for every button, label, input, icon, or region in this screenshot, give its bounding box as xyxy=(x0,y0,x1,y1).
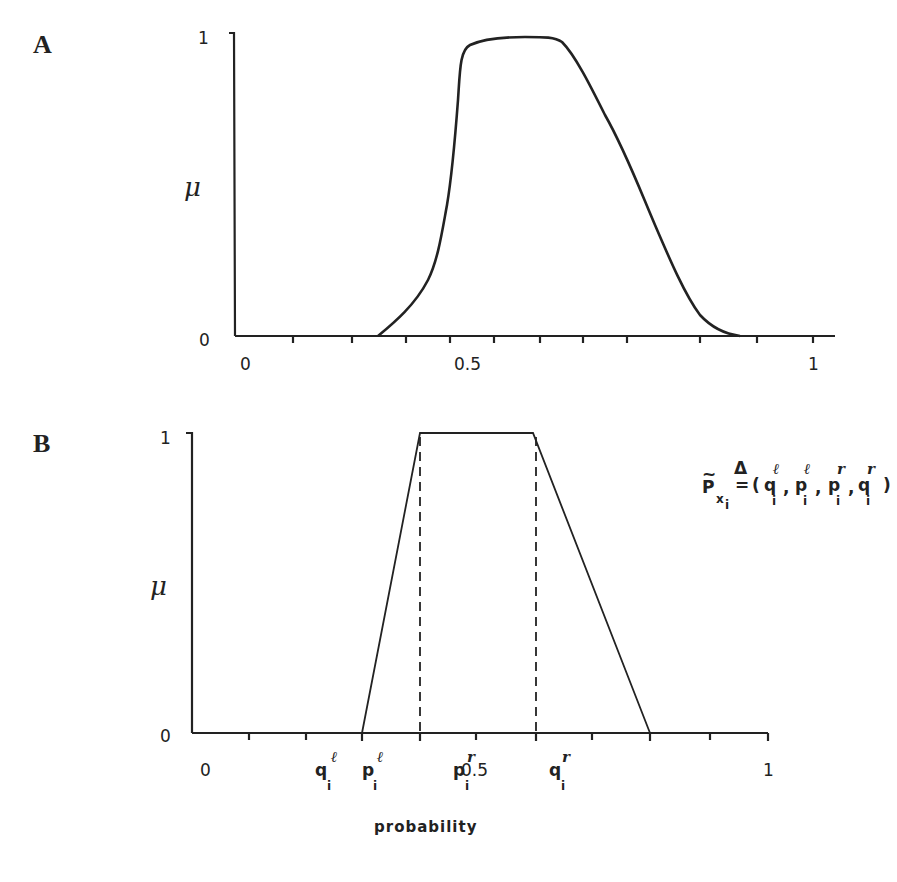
svg-text:i: i xyxy=(327,779,331,793)
panel-b-x-tick-pl: p i ℓ xyxy=(362,748,383,793)
svg-text:i: i xyxy=(561,779,565,793)
panel-a: A 1 0 μ 0 0.5 1 xyxy=(33,28,835,374)
panel-a-y-axis xyxy=(229,33,235,336)
svg-text:i: i xyxy=(866,494,870,508)
svg-text:ℓ: ℓ xyxy=(331,748,337,766)
svg-text:q: q xyxy=(764,475,776,495)
svg-text:r: r xyxy=(467,748,476,766)
panel-b-x-tick-0: 0 xyxy=(200,760,211,780)
svg-text:ℓ: ℓ xyxy=(773,460,779,478)
panel-b-annotation-formula: ~ P x i Δ = ( q i ℓ , p i ℓ , p i r , q … xyxy=(702,458,891,512)
panel-b: B 1 0 μ 0 0.5 1 xyxy=(33,428,891,836)
svg-text:(: ( xyxy=(752,475,760,495)
svg-text:p: p xyxy=(795,475,807,495)
svg-text:q: q xyxy=(549,760,561,780)
svg-text:r: r xyxy=(867,460,876,478)
panel-a-membership-curve xyxy=(378,37,740,336)
panel-b-y-tick-1: 1 xyxy=(160,428,171,448)
svg-text:ℓ: ℓ xyxy=(804,460,810,478)
svg-text:r: r xyxy=(837,460,846,478)
panel-a-x-tick-1: 1 xyxy=(808,354,819,374)
panel-b-y-axis xyxy=(186,433,192,733)
svg-text:): ) xyxy=(883,475,891,495)
svg-text:p: p xyxy=(453,760,465,780)
svg-text:i: i xyxy=(836,494,840,508)
svg-text:P: P xyxy=(702,477,714,497)
panel-a-y-tick-0: 0 xyxy=(199,330,210,350)
svg-text:r: r xyxy=(562,748,571,766)
panel-a-x-tick-0.5: 0.5 xyxy=(454,354,481,374)
svg-text:p: p xyxy=(828,475,840,495)
svg-text:i: i xyxy=(772,494,776,508)
panel-b-x-tick-qr: q i r xyxy=(549,748,571,793)
svg-text:ℓ: ℓ xyxy=(377,748,383,766)
svg-text:q: q xyxy=(315,760,327,780)
svg-text:i: i xyxy=(725,498,729,512)
svg-text:,: , xyxy=(783,477,789,497)
figure: A 1 0 μ 0 0.5 1 B xyxy=(0,0,897,882)
svg-text:i: i xyxy=(803,494,807,508)
panel-b-label: B xyxy=(33,429,50,458)
svg-text:,: , xyxy=(815,477,821,497)
panel-b-trapezoid xyxy=(362,433,650,733)
panel-b-x-tick-ql: q i ℓ xyxy=(315,748,337,793)
panel-a-y-tick-1: 1 xyxy=(198,28,209,48)
panel-b-x-ticks xyxy=(249,733,768,741)
svg-text:,: , xyxy=(848,477,854,497)
panel-b-y-label-mu: μ xyxy=(150,571,167,601)
svg-text:x: x xyxy=(716,492,724,506)
panel-b-y-tick-0: 0 xyxy=(160,726,171,746)
panel-a-x-tick-0: 0 xyxy=(240,354,251,374)
panel-b-x-tick-1: 1 xyxy=(763,760,774,780)
svg-text:p: p xyxy=(362,760,374,780)
svg-text:=: = xyxy=(735,475,749,495)
panel-b-x-label: probability xyxy=(374,818,477,836)
svg-text:i: i xyxy=(373,779,377,793)
panel-a-y-label-mu: μ xyxy=(184,172,201,202)
panel-a-label: A xyxy=(33,30,52,59)
svg-text:q: q xyxy=(858,475,870,495)
svg-text:i: i xyxy=(465,779,469,793)
